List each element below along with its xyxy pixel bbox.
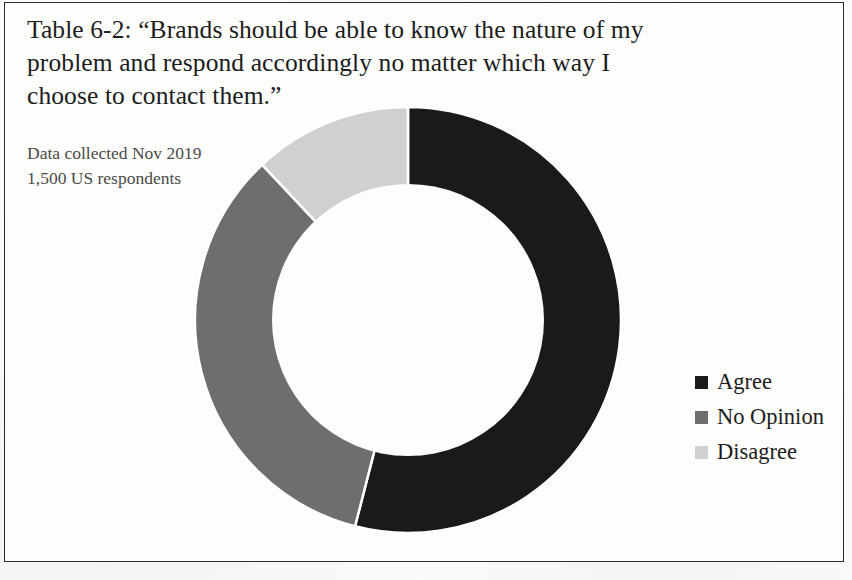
respondents-line: 1,500 US respondents (27, 166, 201, 191)
donut-center-hole (272, 184, 544, 456)
legend-label: No Opinion (717, 406, 824, 429)
chart-legend: Agree No Opinion Disagree (695, 365, 844, 470)
data-source-note: Data collected Nov 2019 1,500 US respond… (27, 141, 201, 191)
data-collected-line: Data collected Nov 2019 (27, 141, 201, 166)
legend-swatch-icon (695, 411, 708, 424)
legend-label: Agree (717, 371, 772, 394)
donut-chart (193, 105, 623, 535)
legend-item-disagree: Disagree (695, 435, 844, 470)
legend-item-agree: Agree (695, 365, 844, 400)
legend-swatch-icon (695, 446, 708, 459)
figure-container: Table 6-2: “Brands should be able to kno… (4, 2, 844, 562)
legend-swatch-icon (695, 376, 708, 389)
legend-item-no-opinion: No Opinion (695, 400, 844, 435)
legend-label: Disagree (717, 441, 797, 464)
figure-caption: Table 6-2: “Brands should be able to kno… (27, 13, 677, 112)
